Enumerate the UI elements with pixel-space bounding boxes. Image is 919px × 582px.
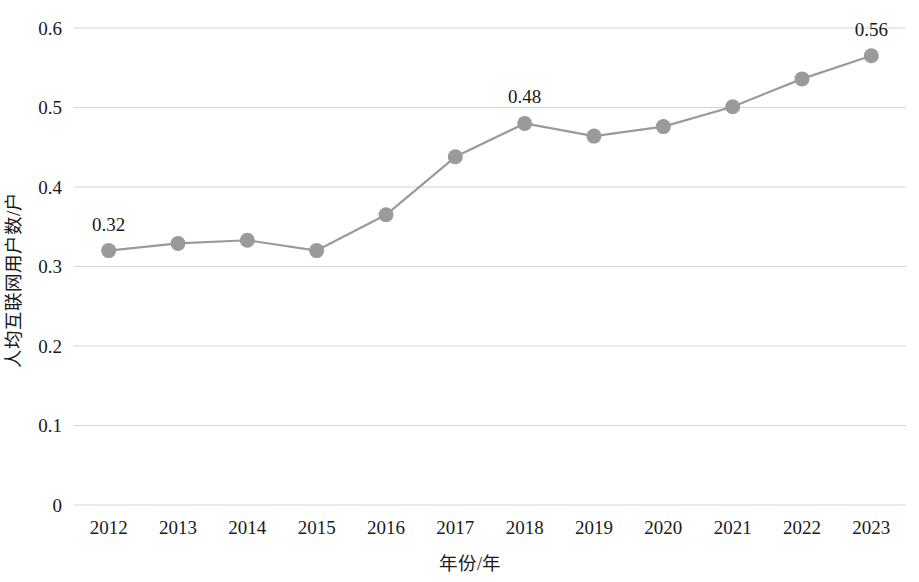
- x-axis-tick-label: 2023: [852, 517, 890, 538]
- data-point-marker: [587, 129, 602, 144]
- data-point-marker: [379, 207, 394, 222]
- y-axis-tick-label: 0.6: [38, 18, 62, 39]
- y-axis-tick-label: 0.5: [38, 97, 62, 118]
- y-axis-tick-label: 0.3: [38, 256, 62, 277]
- x-axis-title: 年份/年: [439, 554, 501, 574]
- x-axis-tick-label: 2022: [783, 517, 821, 538]
- gridlines: [74, 28, 906, 505]
- x-axis-tick-labels: 2012201320142015201620172018201920202021…: [90, 517, 891, 538]
- series-line: [109, 56, 872, 251]
- data-point-marker: [795, 71, 810, 86]
- data-point-marker: [656, 119, 671, 134]
- x-axis-tick-label: 2021: [714, 517, 752, 538]
- y-axis-tick-label: 0.2: [38, 336, 62, 357]
- data-series: [101, 48, 879, 258]
- chart-canvas: 00.10.20.30.40.50.6 20122013201420152016…: [0, 0, 919, 582]
- x-axis-tick-label: 2018: [506, 517, 544, 538]
- data-point-labels: 0.320.480.56: [92, 19, 888, 235]
- data-point-label: 0.48: [508, 86, 541, 107]
- line-chart: 00.10.20.30.40.50.6 20122013201420152016…: [0, 0, 919, 582]
- y-axis-title: 人均互联网用户数/户: [4, 192, 24, 368]
- data-point-marker: [240, 233, 255, 248]
- data-point-marker: [725, 99, 740, 114]
- x-axis-tick-label: 2014: [228, 517, 267, 538]
- y-axis-tick-labels: 00.10.20.30.40.50.6: [38, 18, 62, 516]
- data-point-marker: [448, 149, 463, 164]
- x-axis-tick-label: 2019: [575, 517, 613, 538]
- data-point-marker: [309, 243, 324, 258]
- data-point-marker: [101, 243, 116, 258]
- y-axis-tick-label: 0.4: [38, 177, 62, 198]
- x-axis-tick-label: 2013: [159, 517, 197, 538]
- data-point-label: 0.56: [855, 19, 888, 40]
- y-axis-tick-label: 0: [53, 495, 63, 516]
- x-axis-tick-label: 2016: [367, 517, 405, 538]
- x-axis-tick-label: 2020: [644, 517, 682, 538]
- data-point-marker: [517, 116, 532, 131]
- x-axis-tick-label: 2015: [298, 517, 336, 538]
- data-point-marker: [864, 48, 879, 63]
- x-axis-tick-label: 2012: [90, 517, 128, 538]
- x-axis-tick-label: 2017: [436, 517, 474, 538]
- y-axis-tick-label: 0.1: [38, 415, 62, 436]
- data-point-label: 0.32: [92, 214, 125, 235]
- data-point-marker: [171, 236, 186, 251]
